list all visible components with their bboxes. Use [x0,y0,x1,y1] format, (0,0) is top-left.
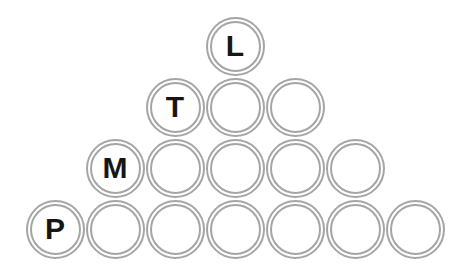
inner-ring [270,204,321,255]
circle-label: M [103,153,128,183]
inner-ring [210,82,261,133]
empty-circle [326,200,385,259]
labeled-circle: M [86,139,145,198]
circle-label: L [226,31,244,61]
pyramid-row: T [146,78,325,137]
diagram-canvas: LTMP [0,0,461,269]
empty-circle [266,139,325,198]
empty-circle [266,78,325,137]
inner-ring [330,204,381,255]
empty-circle [86,200,145,259]
labeled-circle: T [146,78,205,137]
empty-circle [206,139,265,198]
inner-ring [270,82,321,133]
inner-ring [210,143,261,194]
circle-label: P [45,214,65,244]
empty-circle [146,200,205,259]
empty-circle [266,200,325,259]
empty-circle [386,200,445,259]
inner-ring [330,143,381,194]
pyramid-row: M [86,139,385,198]
inner-ring [210,204,261,255]
circle-pyramid: LTMP [0,0,461,269]
inner-ring [270,143,321,194]
inner-ring [390,204,441,255]
labeled-circle: P [26,200,85,259]
empty-circle [326,139,385,198]
labeled-circle: L [206,17,265,76]
empty-circle [146,139,205,198]
inner-ring [90,204,141,255]
inner-ring [150,204,201,255]
empty-circle [206,200,265,259]
inner-ring [150,143,201,194]
empty-circle [206,78,265,137]
circle-label: T [166,92,184,122]
pyramid-row: L [206,17,265,76]
pyramid-row: P [26,200,445,259]
